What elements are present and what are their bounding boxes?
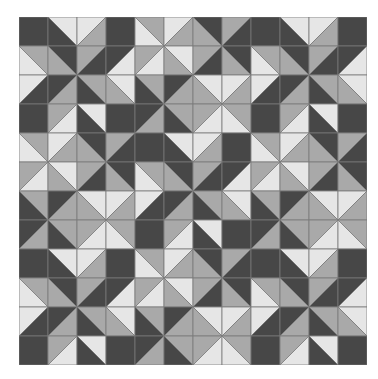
quilt-cell-solid xyxy=(106,17,135,46)
quilt-cell-solid xyxy=(19,17,48,46)
quilt-cell-solid xyxy=(251,17,280,46)
quilt-cell-solid xyxy=(251,249,280,278)
quilt-cell-solid xyxy=(338,249,367,278)
quilt-cell-solid xyxy=(106,104,135,133)
quilt-cell-solid xyxy=(338,336,367,365)
quilt-pattern xyxy=(19,17,367,365)
quilt-cell-solid xyxy=(338,17,367,46)
quilt-cell-solid xyxy=(106,336,135,365)
quilt-cell-solid xyxy=(338,104,367,133)
quilt-cell-solid xyxy=(135,133,164,162)
quilt-cell-solid xyxy=(251,336,280,365)
quilt-cell-solid xyxy=(251,104,280,133)
quilt-cell-solid xyxy=(222,220,251,249)
quilt-cell-solid xyxy=(135,220,164,249)
quilt-cell-solid xyxy=(222,133,251,162)
quilt-cell-solid xyxy=(19,104,48,133)
quilt-cell-solid xyxy=(106,249,135,278)
quilt-cell-solid xyxy=(19,249,48,278)
quilt-cell-solid xyxy=(19,336,48,365)
quilt-canvas xyxy=(19,17,367,365)
